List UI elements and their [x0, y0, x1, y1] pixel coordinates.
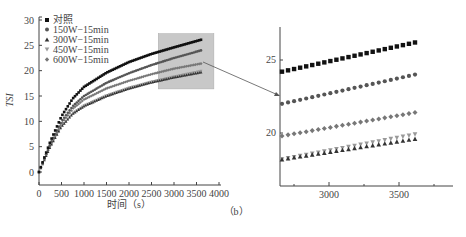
diamond-marker-icon [364, 119, 369, 124]
x-tick-2500: 2500 [142, 188, 162, 199]
triangle-up-marker-icon [413, 137, 418, 141]
y-tick-15: 15 [24, 91, 34, 102]
diamond-marker-icon [286, 132, 291, 137]
diamond-marker-icon [328, 125, 333, 130]
inset-series-150W-15min [280, 73, 417, 106]
diamond-marker-icon [322, 126, 327, 131]
triangle-up-marker-icon [45, 38, 50, 42]
inset-series-600W-15min [279, 110, 417, 138]
diamond-marker-icon [388, 114, 393, 119]
square-marker-icon [340, 56, 344, 60]
circle-marker-icon [358, 84, 362, 88]
diamond-marker-icon [298, 130, 303, 135]
circle-marker-icon [310, 95, 314, 99]
square-marker-icon [50, 137, 53, 140]
square-marker-icon [67, 105, 70, 108]
x-tick-3500: 3500 [187, 188, 207, 199]
circle-marker-icon [401, 75, 405, 79]
x-tick-3000: 3000 [164, 188, 184, 199]
diamond-marker-icon [382, 115, 387, 120]
diamond-marker-icon [400, 112, 405, 117]
diamond-marker-icon [412, 110, 417, 115]
diamond-marker-icon [292, 131, 297, 136]
diamond-marker-icon [340, 123, 345, 128]
circle-marker-icon [328, 91, 332, 95]
square-marker-icon [70, 99, 73, 102]
triangle-up-marker-icon [328, 150, 333, 154]
triangle-up-marker-icon [370, 143, 375, 147]
y-tick-0: 0 [29, 167, 34, 178]
legend-label: 600W−15min [53, 54, 109, 65]
circle-marker-icon [340, 88, 344, 92]
triangle-up-marker-icon [382, 141, 387, 145]
square-marker-icon [401, 43, 405, 47]
triangle-up-marker-icon [395, 139, 400, 143]
square-marker-icon [54, 129, 57, 132]
circle-marker-icon [67, 112, 70, 115]
x-tick-1500: 1500 [97, 188, 117, 199]
circle-marker-icon [286, 100, 290, 104]
square-marker-icon [47, 146, 50, 149]
circle-marker-icon [298, 98, 302, 102]
zoom-arrow [203, 62, 278, 95]
x-tick-500: 500 [54, 188, 69, 199]
triangle-down-marker-icon [413, 132, 418, 136]
circle-marker-icon [377, 80, 381, 84]
x-tick-0: 0 [37, 188, 42, 199]
square-marker-icon [38, 171, 41, 174]
inset-zoom-plot [279, 27, 453, 186]
square-marker-icon [304, 64, 308, 68]
circle-marker-icon [346, 87, 350, 91]
square-marker-icon [377, 48, 381, 52]
legend: 对照 150W−15min 300W−15min 450W−15min 600W… [45, 13, 109, 65]
triangle-down-marker-icon [45, 48, 50, 52]
triangle-down-marker-icon [401, 135, 406, 139]
square-marker-icon [280, 69, 284, 73]
square-marker-icon [59, 117, 62, 120]
square-marker-icon [68, 102, 71, 105]
y-axis-title: TSI [4, 92, 15, 107]
inset-x-tick-3500: 3500 [389, 189, 409, 200]
square-marker-icon [45, 18, 49, 22]
square-marker-icon [395, 44, 399, 48]
main-x-tick-labels: 0 500 1000 1500 2000 2500 3000 3500 4000 [37, 188, 230, 199]
circle-marker-icon [407, 74, 411, 78]
y-tick-25: 25 [24, 40, 34, 51]
circle-marker-icon [200, 49, 203, 52]
y-tick-20: 20 [24, 65, 34, 76]
diamond-marker-icon [316, 127, 321, 132]
circle-marker-icon [352, 86, 356, 90]
triangle-up-marker-icon [322, 150, 327, 154]
triangle-up-marker-icon [352, 146, 357, 150]
inset-series-300W-15min [280, 137, 418, 162]
triangle-up-marker-icon [334, 149, 339, 153]
circle-marker-icon [280, 102, 284, 106]
triangle-down-marker-icon [407, 133, 412, 137]
square-marker-icon [310, 63, 314, 67]
square-marker-icon [352, 54, 356, 58]
circle-marker-icon [63, 116, 66, 119]
diamond-marker-icon [394, 113, 399, 118]
inset-x-tick-3000: 3000 [319, 189, 339, 200]
diamond-marker-icon [406, 111, 411, 116]
triangle-up-marker-icon [376, 142, 381, 146]
chart-figure: 0 5 10 15 20 25 30 0 500 1000 1500 2000 … [0, 0, 466, 237]
circle-marker-icon [322, 92, 326, 96]
circle-marker-icon [65, 114, 68, 117]
square-marker-icon [389, 46, 393, 50]
circle-marker-icon [68, 109, 71, 112]
square-marker-icon [322, 60, 326, 64]
inset-y-tick-20: 20 [266, 127, 276, 138]
diamond-marker-icon [304, 129, 309, 134]
square-marker-icon [40, 166, 43, 169]
square-marker-icon [286, 68, 290, 72]
circle-marker-icon [316, 94, 320, 98]
square-marker-icon [63, 111, 66, 114]
triangle-up-marker-icon [407, 137, 412, 141]
y-tick-5: 5 [29, 141, 34, 152]
square-marker-icon [56, 125, 59, 128]
circle-marker-icon [395, 76, 399, 80]
square-marker-icon [49, 142, 52, 145]
diamond-marker-icon [310, 128, 315, 133]
square-marker-icon [316, 62, 320, 66]
